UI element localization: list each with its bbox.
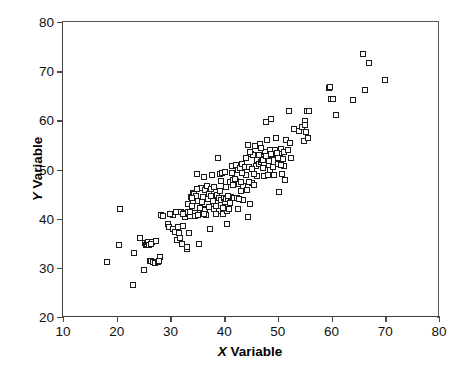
y-tick-60 [57, 120, 63, 121]
data-point [286, 108, 292, 114]
data-point [230, 182, 236, 188]
x-axis-title: X Variable [62, 344, 438, 359]
data-point [201, 211, 207, 217]
data-point [224, 221, 230, 227]
data-point [131, 250, 137, 256]
data-point [251, 171, 257, 177]
x-tick-label-40: 40 [217, 324, 232, 339]
data-point [239, 170, 245, 176]
data-point [213, 211, 219, 217]
data-point [247, 149, 253, 155]
x-tick-label-50: 50 [270, 324, 285, 339]
data-point [285, 147, 291, 153]
data-point [217, 188, 223, 194]
data-point [130, 282, 136, 288]
data-point [327, 84, 333, 90]
data-point [258, 145, 264, 151]
data-point [333, 112, 339, 118]
data-point [160, 213, 166, 219]
data-point [194, 171, 200, 177]
data-point [226, 206, 232, 212]
data-point [274, 150, 280, 156]
data-point [366, 60, 372, 66]
data-point [236, 196, 242, 202]
data-point [362, 87, 368, 93]
data-point [186, 230, 192, 236]
y-tick-label-20: 20 [39, 310, 54, 325]
x-tick-50 [278, 316, 279, 322]
data-point [278, 162, 284, 168]
data-point [244, 187, 250, 193]
y-tick-label-70: 70 [39, 64, 54, 79]
x-tick-20 [117, 316, 118, 322]
y-axis-title: Y Variable [30, 137, 45, 202]
data-point [116, 242, 122, 248]
data-point [208, 193, 214, 199]
y-tick-label-80: 80 [39, 15, 54, 30]
x-tick-10 [63, 316, 64, 322]
data-point [141, 267, 147, 273]
data-point [247, 201, 253, 207]
data-point [360, 51, 366, 57]
data-point [189, 195, 195, 201]
data-point [215, 155, 221, 161]
y-tick-80 [57, 22, 63, 23]
data-point [206, 204, 212, 210]
data-point [184, 244, 190, 250]
data-point [382, 77, 388, 83]
x-tick-30 [170, 316, 171, 322]
data-point [330, 96, 336, 102]
y-tick-50 [57, 170, 63, 171]
data-point [268, 151, 274, 157]
data-point [246, 179, 252, 185]
scatter-plot-figure: 20304050607080 1020304050607080 X Variab… [0, 0, 464, 368]
data-point [196, 241, 202, 247]
data-point [306, 108, 312, 114]
data-point [271, 172, 277, 178]
data-point [264, 137, 270, 143]
y-tick-label-30: 30 [39, 260, 54, 275]
x-tick-60 [332, 316, 333, 322]
x-tick-label-70: 70 [378, 324, 393, 339]
data-point [279, 171, 285, 177]
data-point [273, 135, 279, 141]
data-point [305, 135, 311, 141]
data-point [117, 206, 123, 212]
x-tick-80 [439, 316, 440, 322]
y-tick-40 [57, 219, 63, 220]
data-point [156, 258, 162, 264]
data-point [180, 211, 186, 217]
y-tick-label-40: 40 [39, 211, 54, 226]
data-point [245, 214, 251, 220]
data-point [229, 170, 235, 176]
x-axis-title-suffix: Variable [227, 344, 283, 359]
data-point [350, 97, 356, 103]
data-point [201, 174, 207, 180]
data-point [287, 140, 293, 146]
data-point [220, 205, 226, 211]
x-tick-40 [224, 316, 225, 322]
plot-area: 20304050607080 1020304050607080 [62, 22, 438, 317]
y-axis-title-variable: Y [30, 192, 45, 201]
data-point [207, 226, 213, 232]
data-point [260, 165, 266, 171]
data-point [276, 189, 282, 195]
data-point [235, 206, 241, 212]
data-point [187, 209, 193, 215]
data-point [256, 152, 262, 158]
x-tick-label-60: 60 [324, 324, 339, 339]
x-tick-label-30: 30 [163, 324, 178, 339]
data-point [288, 155, 294, 161]
data-point [302, 122, 308, 128]
data-point [209, 172, 215, 178]
data-point [104, 259, 110, 265]
x-axis-title-variable: X [218, 344, 227, 359]
data-point [153, 238, 159, 244]
data-point [225, 193, 231, 199]
data-point [148, 241, 154, 247]
data-point [222, 169, 228, 175]
data-point [282, 177, 288, 183]
data-point [200, 194, 206, 200]
x-tick-label-80: 80 [431, 324, 446, 339]
data-point [223, 184, 229, 190]
